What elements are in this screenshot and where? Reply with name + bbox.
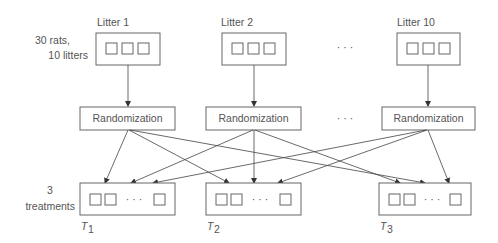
- svg-text:Randomization: Randomization: [218, 112, 288, 124]
- rats-label-line2: 10 litters: [48, 49, 88, 61]
- treatment-label-1: T 1: [81, 220, 94, 235]
- litter-2-label: Litter 2: [221, 16, 253, 28]
- treatment-box-1: · · ·: [80, 183, 175, 215]
- svg-text:· · ·: · · ·: [424, 193, 440, 205]
- randomized-design-diagram: 30 rats, 10 litters 3 treatments Litter …: [0, 0, 498, 243]
- treatment-label-3: T 3: [380, 220, 393, 235]
- treatment-box-3: · · ·: [379, 183, 471, 215]
- randomization-arrows: [105, 130, 449, 183]
- randomization-ellipsis: · · ·: [337, 112, 353, 124]
- svg-text:2: 2: [214, 223, 220, 235]
- litter-2-box: [222, 33, 286, 65]
- randomization-box-3: Randomization: [382, 107, 475, 130]
- litter-10-box: [397, 33, 460, 65]
- treatments-label-line2: treatments: [25, 200, 75, 212]
- rats-label-line1: 30 rats,: [35, 34, 70, 46]
- treatment-box-2: · · ·: [206, 183, 301, 215]
- litter-1-label: Litter 1: [97, 16, 129, 28]
- treatment-label-2: T 2: [207, 220, 220, 235]
- litters-ellipsis: · · ·: [337, 41, 353, 53]
- litter-10-label: Litter 10: [397, 16, 435, 28]
- randomization-box-2: Randomization: [206, 107, 301, 130]
- svg-text:Randomization: Randomization: [393, 112, 463, 124]
- svg-text:3: 3: [387, 223, 393, 235]
- randomization-box-1: Randomization: [80, 107, 175, 130]
- treatments-label-line1: 3: [47, 184, 53, 196]
- svg-text:· · ·: · · ·: [126, 193, 142, 205]
- svg-text:· · ·: · · ·: [252, 193, 268, 205]
- litter-1-box: [96, 33, 160, 65]
- svg-text:1: 1: [88, 223, 94, 235]
- svg-text:Randomization: Randomization: [92, 112, 162, 124]
